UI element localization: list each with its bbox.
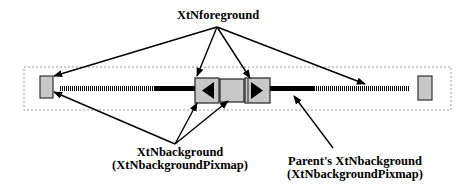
left-solid-trough (154, 86, 195, 91)
parent-background-arrow (294, 96, 333, 148)
right-solid-trough (270, 86, 315, 91)
scrollbar-diagram: XtNforeground XtNbackground (XtNbackgrou… (0, 0, 472, 186)
foreground-label-text: XtNforeground (177, 8, 259, 22)
scrollbar-composite (195, 78, 270, 103)
foreground-label: XtNforeground (173, 9, 263, 22)
left-end-box (40, 76, 53, 98)
parent-background-label-line2: (XtNbackgroundPixmap) (282, 168, 428, 181)
right-end-box (418, 76, 432, 100)
foreground-arrows (54, 27, 365, 84)
background-label-line2: (XtNbackgroundPixmap) (110, 159, 250, 172)
background-label: XtNbackground (XtNbackgroundPixmap) (110, 146, 250, 172)
thumb (220, 79, 244, 102)
parent-background-label: Parent's XtNbackground (XtNbackgroundPix… (282, 155, 428, 181)
left-striped-trough (60, 86, 154, 91)
right-striped-trough (315, 86, 410, 91)
